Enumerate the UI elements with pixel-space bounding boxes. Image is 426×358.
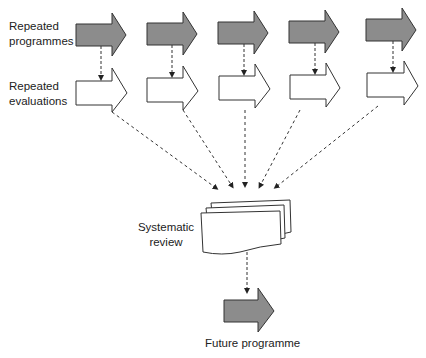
programme-arrow-3: [218, 11, 268, 54]
programme-arrow-1: [76, 13, 126, 56]
evaluation-to-review-connectors: [112, 106, 378, 188]
programme-arrow-2: [147, 12, 197, 55]
programme-arrow-4: [289, 10, 339, 53]
repeated-evaluations-label: Repeated evaluations: [9, 79, 67, 109]
programme-to-evaluation-connectors: [101, 41, 393, 78]
evaluation-arrow-1: [76, 68, 127, 112]
diagram-canvas: [0, 0, 426, 358]
future-programme-arrow: [224, 288, 274, 332]
future-programme-label: Future programme: [205, 336, 300, 351]
systematic-review-document-icon: [201, 200, 291, 254]
systematic-review-label: Systematic review: [135, 220, 197, 250]
evaluation-arrows: [76, 61, 418, 112]
programme-arrow-5: [366, 8, 416, 51]
programme-arrows: [76, 8, 416, 56]
repeated-programmes-label: Repeated programmes: [9, 19, 74, 49]
